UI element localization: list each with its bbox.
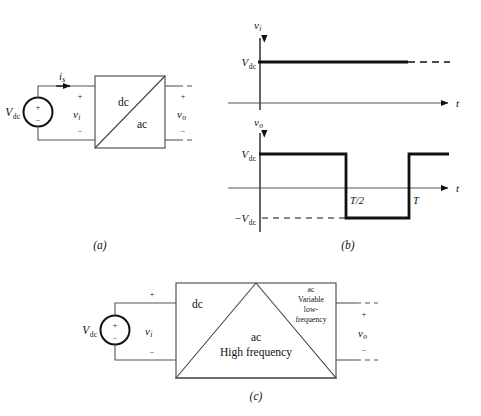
panel-b-caption: (b): [341, 239, 355, 252]
panel-c-input-minus: −: [150, 348, 155, 357]
panel-c-caption: (c): [250, 390, 263, 403]
panel-c-wire-top: [115, 303, 176, 316]
chart-bottom-square-waveform: [259, 154, 449, 218]
figure-root: dc ac + − Vdc is + vi − + vo: [0, 0, 481, 416]
chart-bottom-y-tick-pos-label: Vdc: [242, 148, 257, 163]
panel-c-ac-lf-line4: frequency: [295, 315, 326, 324]
panel-a-input-plus: +: [78, 92, 83, 101]
figure-svg: dc ac + − Vdc is + vi − + vo: [0, 0, 481, 416]
panel-b-bottom-chart: vo t Vdc −Vdc T/2 T (b): [228, 116, 460, 252]
panel-c-ac-hf-line2: High frequency: [220, 346, 292, 359]
panel-a-current-label: is: [59, 71, 65, 84]
panel-c-output-minus: −: [362, 346, 367, 355]
panel-c-wire-bottom: [115, 345, 176, 361]
panel-c-input-label: vi: [145, 325, 152, 339]
chart-top-y-axis-label: vi: [254, 19, 261, 33]
chart-top-x-axis-label: t: [456, 97, 460, 109]
panel-c-ac-hf-line1: ac: [251, 331, 261, 343]
panel-c-ac-lf-line2: Variable: [298, 295, 325, 304]
chart-bottom-x-tick-half-period: T/2: [350, 195, 365, 206]
panel-b-top-chart: vi t Vdc: [228, 19, 460, 110]
panel-a-wire-bottom: [38, 127, 95, 141]
panel-a-input-minus: −: [78, 127, 83, 136]
panel-a-wire-top: [38, 86, 95, 98]
panel-c: dc ac High frequency ac Variable low- fr…: [82, 283, 378, 403]
panel-c-ac-lf-line3: low-: [304, 305, 319, 314]
panel-a: dc ac + − Vdc is + vi − + vo: [5, 71, 196, 252]
panel-a-caption: (a): [93, 239, 107, 252]
panel-a-output-minus: −: [181, 127, 186, 136]
panel-a-source-label: Vdc: [5, 106, 20, 121]
chart-bottom-y-tick-neg-label: −Vdc: [234, 212, 256, 227]
panel-c-source-minus: −: [113, 334, 118, 343]
chart-bottom-y-axis-label: vo: [254, 116, 263, 130]
panel-a-output-label: vo: [177, 108, 186, 122]
panel-a-input-label: vi: [73, 108, 80, 122]
panel-c-source-plus: +: [113, 321, 118, 330]
panel-c-input-plus: +: [150, 290, 155, 299]
panel-c-source-label: Vdc: [82, 324, 97, 339]
panel-a-dc-label: dc: [118, 96, 129, 108]
chart-top-y-tick-label: Vdc: [242, 56, 257, 71]
panel-a-ac-label: ac: [137, 118, 147, 130]
panel-c-ac-lf-line1: ac: [308, 285, 315, 294]
panel-c-output-label: vo: [358, 327, 367, 341]
panel-c-output-plus: +: [362, 310, 367, 319]
chart-bottom-x-axis-label: t: [456, 182, 460, 194]
panel-a-source-plus: +: [36, 103, 41, 112]
chart-bottom-x-tick-period: T: [413, 195, 420, 206]
panel-a-output-plus: +: [181, 92, 186, 101]
panel-a-source-minus: −: [36, 116, 41, 125]
panel-c-dc-label: dc: [192, 298, 203, 310]
